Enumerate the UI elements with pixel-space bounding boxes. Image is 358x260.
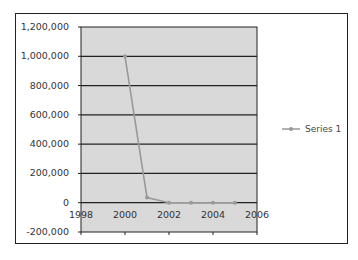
y-tick-label: 400,000: [30, 138, 69, 149]
x-tick-label: 2002: [157, 209, 181, 220]
data-point: [123, 54, 127, 58]
y-tick-label: -200,000: [26, 226, 69, 237]
y-tick-label: 1,000,000: [21, 50, 69, 61]
data-point: [167, 201, 171, 205]
legend: Series 1: [282, 124, 341, 134]
data-point: [211, 201, 215, 205]
y-tick-label: 800,000: [30, 80, 69, 91]
y-tick-label: 200,000: [30, 167, 69, 178]
x-tick-label: 1998: [69, 209, 93, 220]
y-tick-label: 600,000: [30, 109, 69, 120]
x-tick-label: 2004: [201, 209, 225, 220]
legend-marker-icon: [289, 127, 293, 131]
legend-label: Series 1: [305, 124, 341, 134]
x-tick-label: 2006: [245, 209, 269, 220]
y-tick-label: 1,200,000: [21, 21, 69, 32]
line-chart: 1,200,0001,000,000800,000600,000400,0002…: [0, 0, 358, 260]
x-tick-label: 2000: [113, 209, 137, 220]
y-tick-label: 0: [63, 197, 69, 208]
data-point: [145, 196, 149, 200]
data-point: [233, 201, 237, 205]
y-axis-labels: 1,200,0001,000,000800,000600,000400,0002…: [21, 21, 69, 237]
data-point: [189, 201, 193, 205]
